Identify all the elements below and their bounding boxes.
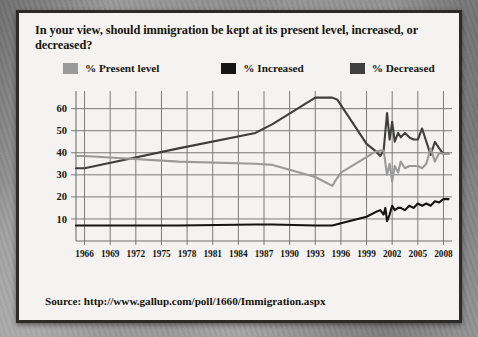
x-tick-label: 1969 — [101, 249, 120, 259]
x-tick-label: 1996 — [332, 249, 351, 259]
x-tick-label: 1993 — [306, 249, 325, 259]
legend-swatch-present-icon — [63, 63, 78, 74]
y-tick-label: 40 — [57, 148, 68, 159]
y-tick-label: 50 — [57, 126, 68, 137]
source-caption: Source: http://www.gallup.com/poll/1660/… — [45, 295, 325, 307]
x-tick-label: 1972 — [127, 249, 146, 259]
x-tick-label: 1990 — [280, 249, 299, 259]
legend-label-increased: % Increased — [243, 62, 303, 74]
page-title: In your view, should immigration be kept… — [35, 23, 435, 53]
x-tick-label: 1987 — [255, 249, 274, 259]
legend-item-increased: % Increased — [221, 62, 303, 74]
x-tick-label: 1999 — [357, 249, 376, 259]
x-axis-tick-labels: 1966196919721975197819811984198719901993… — [75, 249, 453, 259]
x-tick-label: 1975 — [152, 249, 171, 259]
line-chart-svg: 102030405060 196619691972197519781981198… — [29, 81, 455, 267]
y-tick-label: 10 — [57, 214, 68, 225]
x-tick-label: 2008 — [434, 249, 453, 259]
legend-item-decreased: % Decreased — [350, 62, 435, 74]
x-tick-label: 1984 — [229, 249, 248, 259]
chart-legend: % Present level % Increased % Decreased — [37, 62, 449, 74]
series-line-presentlevel — [76, 149, 449, 187]
y-tick-label: 60 — [57, 104, 68, 115]
data-series-group — [76, 98, 449, 226]
x-tick-label: 1981 — [203, 249, 222, 259]
series-line-increased — [76, 199, 449, 225]
legend-label-present-level: % Present level — [85, 62, 159, 74]
x-tick-label: 1966 — [75, 249, 94, 259]
x-tick-label: 1978 — [178, 249, 197, 259]
y-tick-label: 20 — [57, 192, 68, 203]
x-tick-label: 2002 — [383, 249, 402, 259]
legend-swatch-decreased-icon — [350, 63, 365, 74]
y-tick-label: 30 — [57, 170, 68, 181]
y-axis-tick-labels: 102030405060 — [57, 104, 68, 225]
chart-card: In your view, should immigration be kept… — [16, 10, 462, 323]
x-tick-label: 2005 — [409, 249, 428, 259]
chart-plot-area: 102030405060 196619691972197519781981198… — [29, 81, 449, 267]
legend-label-decreased: % Decreased — [372, 62, 435, 74]
legend-swatch-increased-icon — [221, 63, 236, 74]
legend-item-present-level: % Present level — [63, 62, 159, 74]
